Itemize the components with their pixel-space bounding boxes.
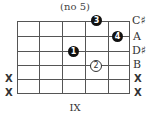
fret-line-1 [17, 21, 18, 94]
fret-line-6 [129, 21, 130, 94]
fret-line-4 [85, 21, 86, 94]
fret-line-2 [39, 21, 40, 94]
string-label-3: D♯ [132, 45, 146, 57]
string-label-2: A [133, 31, 141, 43]
fret-position: IX [0, 101, 150, 115]
string-line-4 [17, 65, 130, 66]
finger-marker-3: 3 [91, 15, 102, 26]
string-label-4: B [133, 59, 141, 71]
finger-marker-2: 2 [90, 60, 102, 72]
muted-mark-5: X [5, 73, 13, 85]
string-line-1 [17, 21, 130, 22]
fret-line-5 [108, 21, 109, 94]
string-line-5 [17, 79, 130, 80]
string-label-6: X [134, 87, 142, 99]
string-label-5: X [134, 73, 142, 85]
string-label-1: C♯ [132, 15, 146, 27]
finger-marker-1: 1 [68, 46, 79, 57]
string-line-6 [17, 93, 130, 94]
finger-marker-4: 4 [112, 31, 123, 42]
fret-line-3 [62, 21, 63, 94]
chord-title: (no 5) [0, 0, 150, 14]
muted-mark-6: X [5, 87, 13, 99]
